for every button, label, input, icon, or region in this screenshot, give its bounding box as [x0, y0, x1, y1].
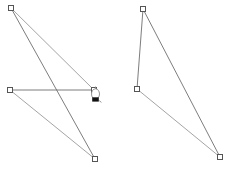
vector-drawing-surface[interactable]: [0, 0, 230, 169]
vertex-left-top[interactable]: [9, 6, 14, 11]
vertex-right-top[interactable]: [141, 7, 146, 12]
vertex-left-bottom[interactable]: [93, 157, 98, 162]
polygon-editor-canvas[interactable]: [0, 0, 230, 169]
vertex-right-bottom-right[interactable]: [218, 155, 223, 160]
vertex-left-left-mid[interactable]: [8, 88, 13, 93]
cursor-tip-icon: [92, 97, 99, 101]
vertex-right-mid-left[interactable]: [135, 87, 140, 92]
canvas-background: [0, 0, 230, 169]
